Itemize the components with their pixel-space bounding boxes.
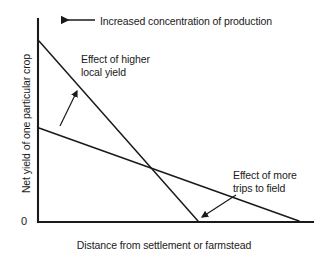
annotation-more-trips-line-2: trips to field <box>233 182 285 194</box>
x-axis-title: Distance from settlement or farmstead <box>0 239 328 252</box>
y-axis-title: Net yield of one particular crop <box>20 24 33 224</box>
higher-local-yield-pointer-arrow-icon <box>60 91 77 126</box>
annotation-more-trips-line-1: Effect of more <box>233 169 297 181</box>
chart-figure: Increased concentration of production Ef… <box>0 0 328 258</box>
annotation-effect-of-more-trips-to-field: Effect of more trips to field <box>233 169 327 195</box>
more-trips-to-field-pointer-arrow-icon <box>202 195 236 217</box>
annotation-higher-yield-line-1: Effect of higher <box>81 53 150 65</box>
annotation-effect-of-higher-local-yield: Effect of higher local yield <box>81 53 177 79</box>
annotation-higher-yield-line-2: local yield <box>81 66 126 78</box>
chart-plot-area <box>0 0 328 258</box>
annotation-increased-concentration-of-production: Increased concentration of production <box>100 15 272 28</box>
